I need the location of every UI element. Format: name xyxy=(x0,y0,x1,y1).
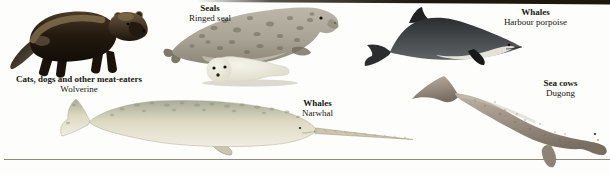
wolverine-name-label: Wolverine xyxy=(4,85,154,95)
harbour-porpoise-caption: Whales Harbour porpoise xyxy=(478,8,593,27)
wolverine-eye xyxy=(127,23,130,26)
seal-nostril xyxy=(334,22,336,24)
porpoise-name-label: Harbour porpoise xyxy=(478,18,593,28)
narwhal-caption: Whales Narwhal xyxy=(270,99,365,118)
wolverine-body xyxy=(30,12,117,62)
dugong-nostril xyxy=(597,139,598,140)
book-page-strip: Cats, dogs and other meat-eaters Wolveri… xyxy=(0,0,610,175)
wolverine-illustration xyxy=(6,4,152,80)
pup-eye-left xyxy=(212,66,215,69)
narwhal-name-label: Narwhal xyxy=(270,109,365,119)
ringed-seal-caption: Seals Ringed seal xyxy=(160,4,260,23)
narwhal-tusk xyxy=(314,128,413,140)
seal-eye xyxy=(319,16,322,19)
seal-hind-flipper xyxy=(292,47,311,56)
porpoise-tail-flukes xyxy=(365,44,391,66)
dugong-caption: Sea cows Dugong xyxy=(513,79,608,98)
wolverine-caption: Cats, dogs and other meat-eaters Wolveri… xyxy=(4,75,154,94)
dugong-eye xyxy=(594,133,596,135)
pup-nose xyxy=(216,73,219,76)
wolverine-nose xyxy=(142,29,145,32)
dugong-tail-flukes xyxy=(412,76,459,102)
seal-name-label: Ringed seal xyxy=(160,14,260,24)
porpoise-eye xyxy=(508,44,510,46)
dugong-name-label: Dugong xyxy=(513,89,608,99)
narwhal-eye xyxy=(299,127,301,129)
pup-eye-right xyxy=(223,65,226,68)
ringed-seal-pup xyxy=(202,57,298,87)
dugong-flipper xyxy=(542,145,556,167)
dugong-body xyxy=(455,93,607,155)
